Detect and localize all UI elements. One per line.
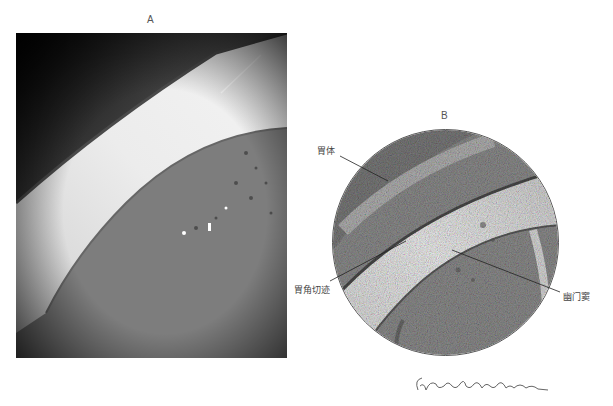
annotation-gastric-body: 胃体 bbox=[317, 144, 335, 157]
annotation-angular-incisure: 胃角切迹 bbox=[294, 283, 330, 296]
panel-b-label: B bbox=[441, 110, 448, 121]
endoscopic-drawing bbox=[332, 129, 559, 356]
artist-signature bbox=[410, 372, 560, 404]
endoscopic-photo bbox=[16, 33, 287, 358]
panel-a-label: A bbox=[147, 14, 154, 25]
annotation-pyloric-antrum: 幽门窦 bbox=[563, 290, 590, 303]
